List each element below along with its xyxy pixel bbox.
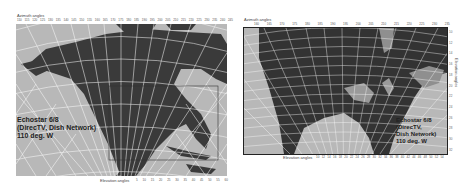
azimuth-tick-label: 135 (56, 18, 61, 22)
azimuth-tick-label: 190 (330, 22, 335, 26)
elevation-tick-label: 30 (175, 178, 178, 182)
elevation-tick-label: 15 (151, 178, 154, 182)
right-map-panel: Azimuth angles 1601651701751801851901952… (240, 0, 460, 192)
elevation-tick-label: 10 (143, 178, 146, 182)
elevation-tick-label: 26 (361, 155, 364, 159)
elevation-tick-label: 28 (367, 155, 370, 159)
right-satellite-label: Echostar 6/8 (DirecTV, Dish Network) 110… (396, 117, 436, 145)
azimuth-tick-label: 110 (17, 18, 22, 22)
right-elevation-ticks: 1012141618202224262830323436384042444648… (316, 155, 444, 159)
elevation-side-tick-label: 14 (449, 51, 452, 55)
left-label-satellite: Echostar 6/8 (17, 116, 96, 124)
elevation-side-tick-label: 24 (449, 105, 452, 109)
azimuth-tick-label: 210 (381, 22, 386, 26)
azimuth-tick-label: 145 (71, 18, 76, 22)
azimuth-tick-label: 230 (432, 22, 437, 26)
elevation-tick-label: 16 (333, 155, 336, 159)
elevation-tick-label: 50 (429, 155, 432, 159)
elevation-tick-label: 30 (373, 155, 376, 159)
elevation-tick-label: 34 (384, 155, 387, 159)
elevation-side-tick-label: 32 (449, 148, 452, 152)
azimuth-tick-label: 190 (142, 18, 147, 22)
azimuth-tick-label: 165 (267, 22, 272, 26)
azimuth-tick-label: 195 (150, 18, 155, 22)
elevation-tick-label: 50 (208, 178, 211, 182)
azimuth-tick-label: 130 (48, 18, 53, 22)
elevation-tick-label: 52 (435, 155, 438, 159)
elevation-tick-label: 38 (395, 155, 398, 159)
azimuth-tick-label: 175 (292, 22, 297, 26)
azimuth-tick-label: 225 (197, 18, 202, 22)
left-label-providers: (DirecTV, Dish Network) (17, 124, 96, 132)
right-label-provider-1: (DirecTV, (396, 124, 436, 131)
elevation-tick-label: 45 (200, 178, 203, 182)
left-satellite-label: Echostar 6/8 (DirecTV, Dish Network) 110… (17, 116, 96, 140)
right-label-provider-2: Dish Network) (396, 131, 436, 138)
elevation-side-tick-label: 20 (449, 84, 452, 88)
azimuth-tick-label: 150 (79, 18, 84, 22)
elevation-tick-label: 46 (418, 155, 421, 159)
elevation-tick-label: 44 (412, 155, 415, 159)
azimuth-tick-label: 235 (445, 22, 450, 26)
azimuth-tick-label: 240 (220, 18, 225, 22)
azimuth-tick-label: 155 (87, 18, 92, 22)
elevation-side-tick-label: 12 (449, 41, 452, 45)
azimuth-tick-label: 235 (212, 18, 217, 22)
azimuth-tick-label: 225 (419, 22, 424, 26)
azimuth-tick-label: 230 (204, 18, 209, 22)
azimuth-tick-label: 200 (157, 18, 162, 22)
elevation-tick-label: 40 (401, 155, 404, 159)
elevation-tick-label: 24 (356, 155, 359, 159)
azimuth-tick-label: 165 (103, 18, 108, 22)
azimuth-tick-label: 210 (173, 18, 178, 22)
elevation-side-tick-label: 16 (449, 62, 452, 66)
elevation-tick-label: 40 (192, 178, 195, 182)
right-elevation-title: Elevation angles (283, 155, 312, 160)
azimuth-tick-label: 120 (32, 18, 37, 22)
azimuth-tick-label: 140 (64, 18, 69, 22)
elevation-tick-label: 36 (390, 155, 393, 159)
azimuth-tick-label: 170 (111, 18, 116, 22)
left-map-image (16, 24, 227, 176)
north-america-coverage-map (16, 24, 227, 176)
azimuth-tick-label: 215 (394, 22, 399, 26)
azimuth-tick-label: 205 (368, 22, 373, 26)
elevation-tick-label: 12 (322, 155, 325, 159)
left-map-panel: Azimuth angles 1101151201251301351401451… (0, 0, 240, 192)
azimuth-tick-label: 160 (95, 18, 100, 22)
right-label-longitude: 110 deg. W (396, 138, 436, 145)
azimuth-tick-label: 195 (343, 22, 348, 26)
azimuth-tick-label: 170 (279, 22, 284, 26)
elevation-side-tick-label: 28 (449, 126, 452, 130)
azimuth-tick-label: 185 (318, 22, 323, 26)
elevation-tick-label: 20 (159, 178, 162, 182)
azimuth-tick-label: 245 (228, 18, 233, 22)
left-label-longitude: 110 deg. W (17, 132, 96, 140)
elevation-side-tick-label: 18 (449, 73, 452, 77)
left-elevation-title: Elevation angles (100, 178, 129, 183)
azimuth-tick-label: 175 (118, 18, 123, 22)
elevation-tick-label: 10 (316, 155, 319, 159)
right-azimuth-ticks: 1601651701751801851901952002052102152202… (254, 22, 450, 26)
azimuth-tick-label: 215 (181, 18, 186, 22)
azimuth-tick-label: 180 (126, 18, 131, 22)
elevation-tick-label: 42 (407, 155, 410, 159)
azimuth-tick-label: 205 (165, 18, 170, 22)
elevation-side-tick-label: 30 (449, 137, 452, 141)
azimuth-tick-label: 220 (189, 18, 194, 22)
elevation-tick-label: 54 (440, 155, 443, 159)
elevation-tick-label: 48 (423, 155, 426, 159)
right-label-satellite: Echostar 6/8 (396, 117, 436, 124)
elevation-side-tick-label: 10 (449, 30, 452, 34)
elevation-tick-label: 5 (136, 178, 138, 182)
azimuth-tick-label: 115 (25, 18, 30, 22)
elevation-side-tick-label: 26 (449, 116, 452, 120)
elevation-side-tick-label: 22 (449, 94, 452, 98)
azimuth-tick-label: 220 (407, 22, 412, 26)
elevation-tick-label: 20 (344, 155, 347, 159)
left-elevation-ticks: 51015202530354045505560 (136, 178, 228, 182)
azimuth-tick-label: 125 (40, 18, 45, 22)
elevation-tick-label: 60 (225, 178, 228, 182)
azimuth-tick-label: 160 (254, 22, 259, 26)
elevation-tick-label: 22 (350, 155, 353, 159)
